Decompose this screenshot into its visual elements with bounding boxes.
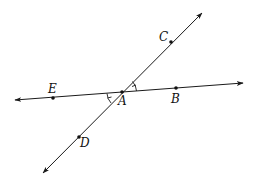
label-A: A [117,94,127,108]
label-B: B [170,92,180,106]
label-E: E [47,82,57,96]
point-E [51,96,55,100]
angle-mark-EAD [107,94,112,104]
point-C [169,40,173,44]
geometry-diagram: A B C D E [0,0,255,183]
point-B [174,86,178,90]
label-D: D [79,136,90,150]
label-C: C [159,30,168,44]
diagram-canvas: A B C D E [0,0,255,183]
